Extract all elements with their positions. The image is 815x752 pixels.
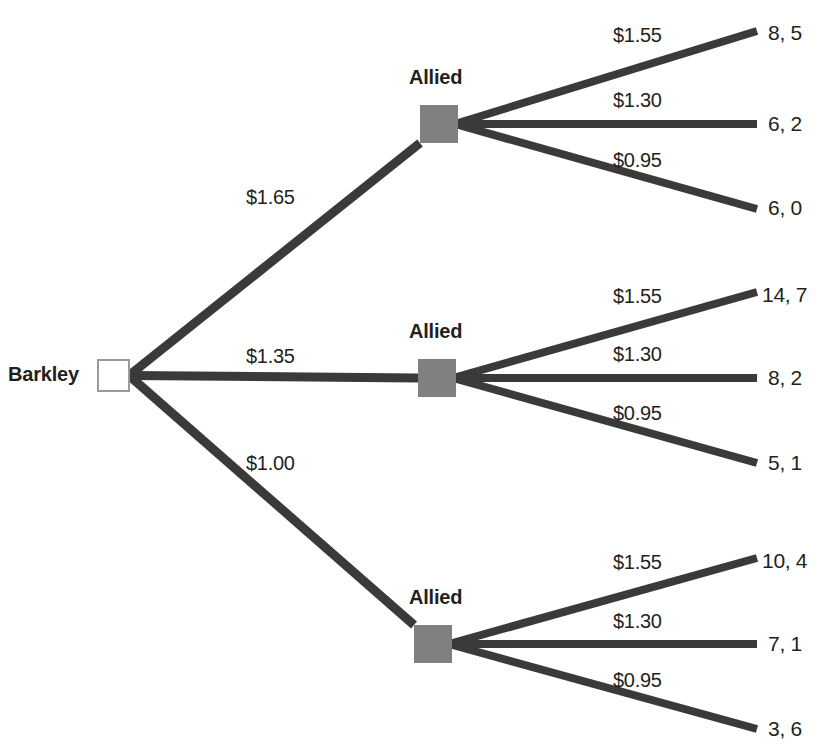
allied-middle-player-label: Allied	[409, 320, 462, 343]
edge-allied-bottom-3	[449, 644, 757, 729]
allied-bottom-decision-node[interactable]	[414, 625, 452, 663]
allied-middle-decision-node[interactable]	[418, 359, 456, 397]
allied-middle-branch-label-3: $0.95	[613, 402, 662, 425]
allied-top-branch-label-1: $1.55	[613, 24, 662, 47]
barkley-branch-label-1: $1.65	[246, 186, 295, 209]
allied-top-payoff-2: 6, 2	[768, 112, 802, 136]
game-tree-edges-layer	[0, 0, 815, 752]
edge-allied-bottom-1	[449, 558, 757, 644]
barkley-decision-node[interactable]	[98, 360, 129, 391]
barkley-branch-label-2: $1.35	[246, 345, 295, 368]
barkley-player-label: Barkley	[8, 363, 79, 386]
allied-bottom-payoff-1: 10, 4	[762, 549, 807, 573]
edge-barkley-165	[129, 143, 420, 376]
allied-top-player-label: Allied	[409, 66, 462, 89]
allied-middle-branch-label-1: $1.55	[613, 285, 662, 308]
edge-allied-top-1	[455, 31, 757, 124]
barkley-branch-label-3: $1.00	[246, 452, 295, 475]
allied-top-payoff-1: 8, 5	[768, 21, 802, 45]
game-tree-diagram: $1.65$1.35$1.00Barkley$1.558, 5$1.306, 2…	[0, 0, 815, 752]
allied-top-payoff-3: 6, 0	[768, 196, 802, 220]
allied-bottom-branch-label-3: $0.95	[613, 669, 662, 692]
allied-bottom-payoff-2: 7, 1	[768, 632, 802, 656]
allied-middle-payoff-1: 14, 7	[762, 283, 807, 307]
edge-allied-top-3	[455, 124, 757, 209]
allied-bottom-branch-label-2: $1.30	[613, 610, 662, 633]
allied-top-decision-node[interactable]	[420, 105, 458, 143]
allied-middle-branch-label-2: $1.30	[613, 343, 662, 366]
allied-bottom-player-label: Allied	[409, 586, 462, 609]
edge-barkley-135	[129, 376, 418, 379]
allied-middle-payoff-2: 8, 2	[768, 366, 802, 390]
allied-top-branch-label-2: $1.30	[613, 89, 662, 112]
edge-barkley-100	[129, 376, 414, 626]
allied-top-branch-label-3: $0.95	[613, 149, 662, 172]
edge-allied-middle-1	[453, 292, 757, 378]
allied-middle-payoff-3: 5, 1	[768, 451, 802, 475]
allied-bottom-branch-label-1: $1.55	[613, 551, 662, 574]
allied-bottom-payoff-3: 3, 6	[768, 717, 802, 741]
edge-allied-middle-3	[453, 378, 757, 463]
